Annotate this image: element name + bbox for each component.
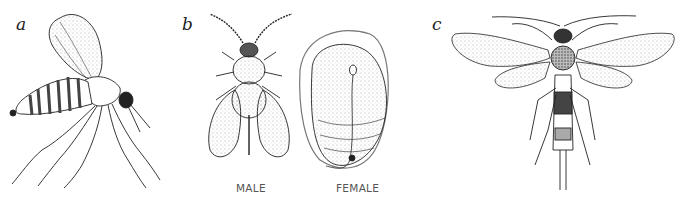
- panel-label-c: c: [432, 14, 442, 34]
- caption-female: FEMALE: [336, 182, 379, 194]
- caption-male: MALE: [236, 182, 266, 194]
- wood-wasp-drawing: [452, 16, 674, 190]
- fly-drawing: [10, 14, 160, 188]
- insect-illustrations: [0, 0, 684, 204]
- male-scale-insect-drawing: [209, 14, 292, 157]
- insect-figure: a b c MALE FEMALE: [0, 0, 684, 204]
- female-scale-insect-drawing: [300, 31, 389, 168]
- panel-label-a: a: [16, 14, 26, 34]
- panel-label-b: b: [182, 14, 193, 34]
